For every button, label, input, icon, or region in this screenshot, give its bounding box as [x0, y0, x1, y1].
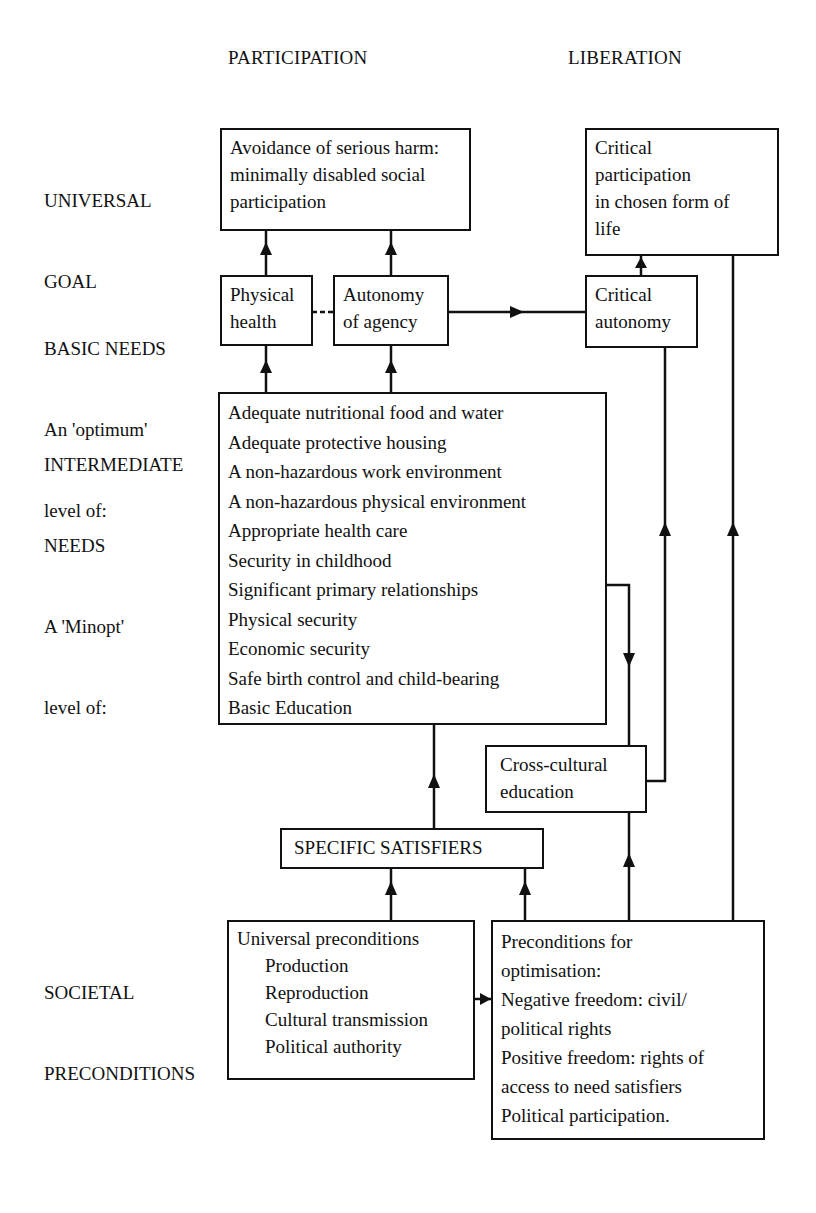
box-critical-autonomy: Critical autonomy [585, 275, 698, 348]
list-item: Economic security [228, 634, 597, 664]
row-label-line: BASIC NEEDS [44, 335, 166, 362]
row-label-intermediate-needs: INTERMEDIATE NEEDS A 'Minopt' level of: [44, 397, 183, 748]
row-label-line: PRECONDITIONS [44, 1060, 195, 1087]
row-label-line: A 'Minopt' [44, 613, 183, 640]
connector-crosscultural-to-critical-autonomy [646, 347, 665, 781]
list-item: Production [237, 952, 465, 979]
box-critical-participation: Critical participation in chosen form of… [585, 128, 779, 256]
row-label-societal-preconditions: SOCIETAL PRECONDITIONS [44, 925, 195, 1114]
arrowhead-right-icon [510, 306, 524, 318]
box-physical-health: Physical health [220, 275, 313, 346]
list-item: Appropriate health care [228, 516, 597, 546]
list-item: Adequate nutritional food and water [228, 398, 597, 428]
box-text-line: autonomy [595, 308, 688, 335]
arrowhead-up-icon [260, 360, 272, 373]
row-label-line: level of: [44, 694, 183, 721]
row-label-line: SOCIETAL [44, 979, 195, 1006]
box-text-line: life [595, 215, 769, 242]
box-text-line: Preconditions for [501, 927, 755, 956]
list-item: Reproduction [237, 979, 465, 1006]
list-item: Adequate protective housing [228, 428, 597, 458]
box-intermediate-needs-list: Adequate nutritional food and water Adeq… [218, 392, 607, 725]
row-label-line: INTERMEDIATE [44, 451, 183, 478]
box-text-line: Cross-cultural [500, 751, 637, 778]
box-text-line: minimally disabled social [230, 161, 461, 188]
arrowhead-up-icon [385, 360, 397, 373]
box-text-line: Autonomy [343, 281, 439, 308]
list-item: Physical security [228, 605, 597, 635]
arrowhead-up-icon [635, 257, 647, 268]
box-text-line: in chosen form of [595, 188, 769, 215]
list-item: Basic Education [228, 693, 597, 723]
list-item: Significant primary relationships [228, 575, 597, 605]
arrowhead-up-icon [260, 242, 272, 255]
list-item: Security in childhood [228, 546, 597, 576]
box-preconditions-for-optimisation: Preconditions for optimisation: Negative… [491, 920, 765, 1140]
column-heading-participation: PARTICIPATION [228, 47, 367, 69]
box-text-line: Political participation. [501, 1101, 755, 1130]
arrowhead-down-icon [623, 653, 635, 667]
box-text-line: Avoidance of serious harm: [230, 134, 461, 161]
arrowhead-up-icon [623, 853, 635, 867]
row-label-line: NEEDS [44, 532, 183, 559]
box-text-line: optimisation: [501, 956, 755, 985]
box-text-line: access to need satisfiers [501, 1072, 755, 1101]
box-text-line: Critical [595, 134, 769, 161]
arrowhead-up-icon [659, 522, 671, 536]
box-text-line: education [500, 778, 637, 805]
box-text-line: of agency [343, 308, 439, 335]
arrowhead-up-icon [385, 881, 397, 895]
list-item: Political authority [237, 1033, 465, 1060]
list-item: Safe birth control and child-bearing [228, 664, 597, 694]
box-cross-cultural-education: Cross-cultural education [485, 745, 647, 813]
box-specific-satisfiers: SPECIFIC SATISFIERS [280, 828, 544, 869]
list-item: A non-hazardous physical environment [228, 487, 597, 517]
box-text-line: Positive freedom: rights of [501, 1043, 755, 1072]
box-text-line: Physical [230, 281, 303, 308]
box-text-line: political rights [501, 1014, 755, 1043]
arrowhead-right-icon [480, 993, 491, 1005]
arrowhead-up-icon [727, 522, 739, 536]
box-text-line: health [230, 308, 303, 335]
box-text-line: Negative freedom: civil/ [501, 985, 755, 1014]
box-text-line: participation [230, 188, 461, 215]
row-label-line: UNIVERSAL [44, 187, 152, 214]
arrowhead-up-icon [519, 881, 531, 895]
box-universal-preconditions: Universal preconditions Production Repro… [227, 920, 475, 1080]
box-avoidance-of-serious-harm: Avoidance of serious harm: minimally dis… [220, 128, 471, 231]
box-title: Universal preconditions [237, 925, 465, 952]
column-heading-liberation: LIBERATION [568, 47, 682, 69]
box-text-line: SPECIFIC SATISFIERS [294, 834, 530, 861]
box-text-line: participation [595, 161, 769, 188]
list-item: A non-hazardous work environment [228, 457, 597, 487]
box-text-line: Critical [595, 281, 688, 308]
arrowhead-up-icon [428, 774, 440, 788]
connector-intermediate-to-crosscultural [606, 585, 629, 745]
arrowhead-up-icon [385, 242, 397, 255]
list-item: Cultural transmission [237, 1006, 465, 1033]
box-autonomy-of-agency: Autonomy of agency [333, 275, 449, 346]
